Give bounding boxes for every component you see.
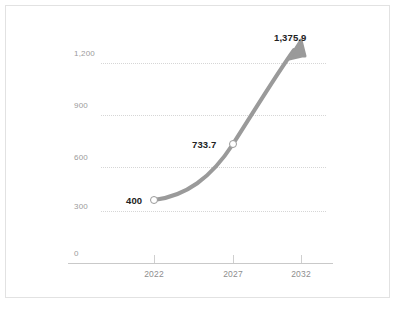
x-tick-mark-2022 bbox=[154, 255, 155, 263]
x-tick-label-2027: 2027 bbox=[213, 269, 253, 279]
data-value-label-2022: 400 bbox=[126, 195, 142, 206]
data-point-marker-2027[interactable] bbox=[229, 140, 237, 148]
x-tick-label-2022: 2022 bbox=[134, 269, 174, 279]
x-tick-mark-2027 bbox=[233, 255, 234, 263]
x-tick-mark-2032 bbox=[301, 255, 302, 263]
x-axis-line bbox=[68, 263, 333, 264]
chart-plot-area: 1,200 900 600 300 0 400 733.7 1,375.9 20… bbox=[6, 6, 391, 299]
data-value-label-2032: 1,375.9 bbox=[274, 32, 306, 43]
growth-line-curve bbox=[6, 6, 391, 299]
x-tick-label-2032: 2032 bbox=[281, 269, 321, 279]
data-point-marker-2022[interactable] bbox=[150, 196, 158, 204]
chart-card: 1,200 900 600 300 0 400 733.7 1,375.9 20… bbox=[5, 5, 390, 298]
data-value-label-2027: 733.7 bbox=[192, 139, 216, 150]
